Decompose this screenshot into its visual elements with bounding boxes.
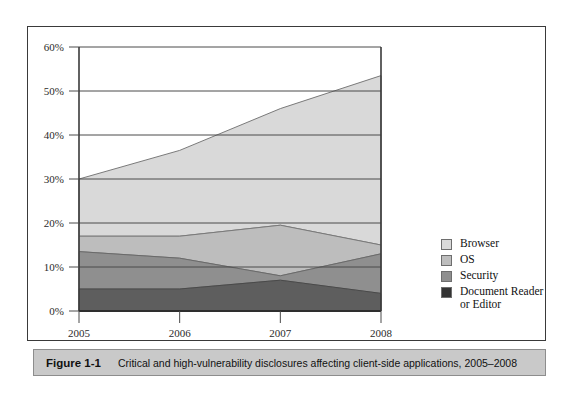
x-tick-label-2008: 2008 <box>370 327 393 339</box>
legend-label-document-reader-or-editor: Document Reader or Editor <box>460 285 543 311</box>
legend-swatch-browser-icon <box>441 239 452 250</box>
y-tick-label-10: 10% <box>44 261 64 273</box>
figure-container: 60% 50% 40% 30% 20% 10% 0% 2005 2006 200… <box>0 0 570 399</box>
y-tick-label-20: 20% <box>44 217 64 229</box>
figure-caption-bar: Figure 1-1 Critical and high-vulnerabili… <box>33 349 546 376</box>
legend-label-browser: Browser <box>460 237 499 250</box>
legend-item-browser: Browser <box>441 237 561 250</box>
x-tick-label-2007: 2007 <box>269 327 292 339</box>
y-tick-label-30: 30% <box>44 173 64 185</box>
y-tick-label-40: 40% <box>44 129 64 141</box>
x-tick-label-2005: 2005 <box>68 327 91 339</box>
y-tick-marks <box>69 47 79 311</box>
y-tick-label-0: 0% <box>49 305 64 317</box>
legend-item-document-reader-or-editor: Document Reader or Editor <box>441 285 561 311</box>
legend-label-line2: or Editor <box>460 298 501 310</box>
figure-frame: 60% 50% 40% 30% 20% 10% 0% 2005 2006 200… <box>27 26 546 341</box>
legend-label-os: OS <box>460 253 475 266</box>
y-tick-label-50: 50% <box>44 85 64 97</box>
legend-item-os: OS <box>441 253 561 266</box>
chart-legend: Browser OS Security Document Reader or E… <box>441 237 561 314</box>
legend-swatch-document-reader-or-editor-icon <box>441 287 452 298</box>
y-tick-label-60: 60% <box>44 41 64 53</box>
x-tick-label-2006: 2006 <box>169 327 192 339</box>
figure-caption-text: Critical and high-vulnerability disclosu… <box>118 357 517 369</box>
legend-label-security: Security <box>460 269 498 282</box>
x-tick-marks <box>79 311 381 323</box>
legend-label-line1: Document Reader <box>460 285 543 297</box>
legend-swatch-os-icon <box>441 255 452 266</box>
legend-swatch-security-icon <box>441 271 452 282</box>
figure-number: Figure 1-1 <box>46 357 101 369</box>
legend-item-security: Security <box>441 269 561 282</box>
